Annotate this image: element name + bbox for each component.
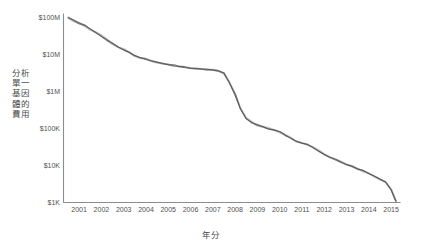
plot-area (0, 0, 422, 250)
series-line-halo (68, 18, 396, 202)
axis-lines (64, 14, 401, 203)
genome-cost-chart: 分析單一基因體的費用 $100M $10M $1M $100K $10K $1K… (0, 0, 422, 250)
series-line (68, 18, 396, 201)
x-axis-title: 年分 (0, 228, 422, 240)
series-line-ink (69, 17, 396, 201)
